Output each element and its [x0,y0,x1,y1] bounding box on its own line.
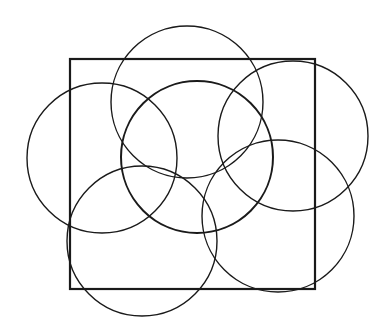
circle-top [111,26,263,178]
square [70,59,315,289]
circle-center [121,81,273,233]
circle-left [27,83,177,233]
square-circle-cover-diagram [0,0,387,333]
circle-right [218,61,368,211]
circle-bottom-right [202,140,354,292]
circles-group [27,26,368,316]
circle-bottom-left [67,166,217,316]
